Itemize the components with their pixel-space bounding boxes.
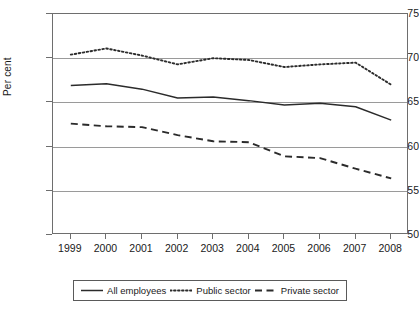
series-line-private-sector <box>71 124 391 179</box>
y-tick-mark-50 <box>46 234 52 235</box>
x-tick-label-2008: 2008 <box>368 243 412 254</box>
legend-item-private-sector[interactable]: Private sector <box>255 286 339 296</box>
legend-item-all-employees[interactable]: All employees <box>81 286 166 296</box>
y-axis-title: Per cent <box>2 36 13 96</box>
legend-swatch-solid <box>81 287 103 294</box>
data-series-group <box>53 14 409 235</box>
legend-swatch-dotted <box>170 287 192 294</box>
legend-label: Public sector <box>196 286 250 296</box>
legend-label: All employees <box>107 286 166 296</box>
chart-container: Per cent 505560657075 199920002001200220… <box>0 0 419 311</box>
legend-item-public-sector[interactable]: Public sector <box>170 286 250 296</box>
chart-legend: All employeesPublic sectorPrivate sector <box>73 280 347 301</box>
legend-label: Private sector <box>281 286 339 296</box>
series-line-public-sector <box>71 48 391 84</box>
series-line-all-employees <box>71 84 391 120</box>
plot-area <box>52 13 408 234</box>
legend-swatch-dashed <box>255 287 277 294</box>
